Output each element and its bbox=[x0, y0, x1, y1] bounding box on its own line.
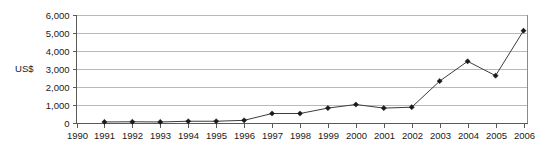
x-tick-label-2001: 2001 bbox=[374, 130, 395, 141]
y-axis-unit-label-text: US$ bbox=[15, 63, 34, 74]
x-tick-label-2003: 2003 bbox=[430, 130, 451, 141]
x-tick-label-2000: 2000 bbox=[346, 130, 367, 141]
data-point-1996 bbox=[242, 118, 247, 123]
y-tick-label-0: 0 bbox=[64, 118, 69, 129]
y-axis-tick-labels: 01,0002,0003,0004,0005,0006,000 bbox=[46, 10, 70, 129]
x-tick-label-2005: 2005 bbox=[486, 130, 507, 141]
data-point-1999 bbox=[325, 106, 330, 111]
data-point-2005 bbox=[493, 73, 498, 78]
series-markers-us-dollars bbox=[102, 28, 526, 124]
chart-container: 01,0002,0003,0004,0005,0006,000 US$ 1990… bbox=[0, 0, 541, 149]
data-point-2001 bbox=[381, 106, 386, 111]
x-tick-label-1998: 1998 bbox=[290, 130, 311, 141]
plot-area-border bbox=[77, 15, 528, 123]
data-point-1998 bbox=[297, 111, 302, 116]
data-point-2000 bbox=[353, 102, 358, 107]
x-tick-label-2004: 2004 bbox=[458, 130, 479, 141]
x-tick-label-1994: 1994 bbox=[178, 130, 199, 141]
x-tick-label-1990: 1990 bbox=[67, 130, 88, 141]
series-line-us-dollars bbox=[104, 31, 523, 122]
x-tick-label-1992: 1992 bbox=[122, 130, 143, 141]
x-tick-label-1997: 1997 bbox=[262, 130, 283, 141]
y-tick-label-5000: 5,000 bbox=[46, 28, 70, 39]
data-point-1997 bbox=[269, 111, 274, 116]
gridlines bbox=[77, 16, 528, 124]
x-tick-label-2002: 2002 bbox=[402, 130, 423, 141]
data-point-2006 bbox=[521, 28, 526, 33]
x-tick-label-1999: 1999 bbox=[318, 130, 339, 141]
y-tick-label-4000: 4,000 bbox=[46, 46, 70, 57]
line-chart: 01,0002,0003,0004,0005,0006,000 US$ 1990… bbox=[0, 0, 541, 149]
y-tick-label-2000: 2,000 bbox=[46, 82, 70, 93]
y-axis-unit-label: US$ bbox=[15, 63, 34, 74]
y-tick-label-1000: 1,000 bbox=[46, 100, 70, 111]
series-polyline bbox=[104, 31, 523, 122]
x-tick-label-1996: 1996 bbox=[234, 130, 255, 141]
x-tick-label-1995: 1995 bbox=[206, 130, 227, 141]
x-tick-label-1993: 1993 bbox=[150, 130, 171, 141]
y-tick-label-3000: 3,000 bbox=[46, 64, 70, 75]
x-tick-label-1991: 1991 bbox=[94, 130, 115, 141]
y-axis-ticks bbox=[73, 16, 77, 124]
x-axis-ticks bbox=[78, 124, 525, 128]
x-tick-label-2006: 2006 bbox=[514, 130, 535, 141]
x-axis-tick-labels: 1990199119921993199419951996199719981999… bbox=[67, 130, 535, 141]
y-tick-label-6000: 6,000 bbox=[46, 10, 70, 21]
